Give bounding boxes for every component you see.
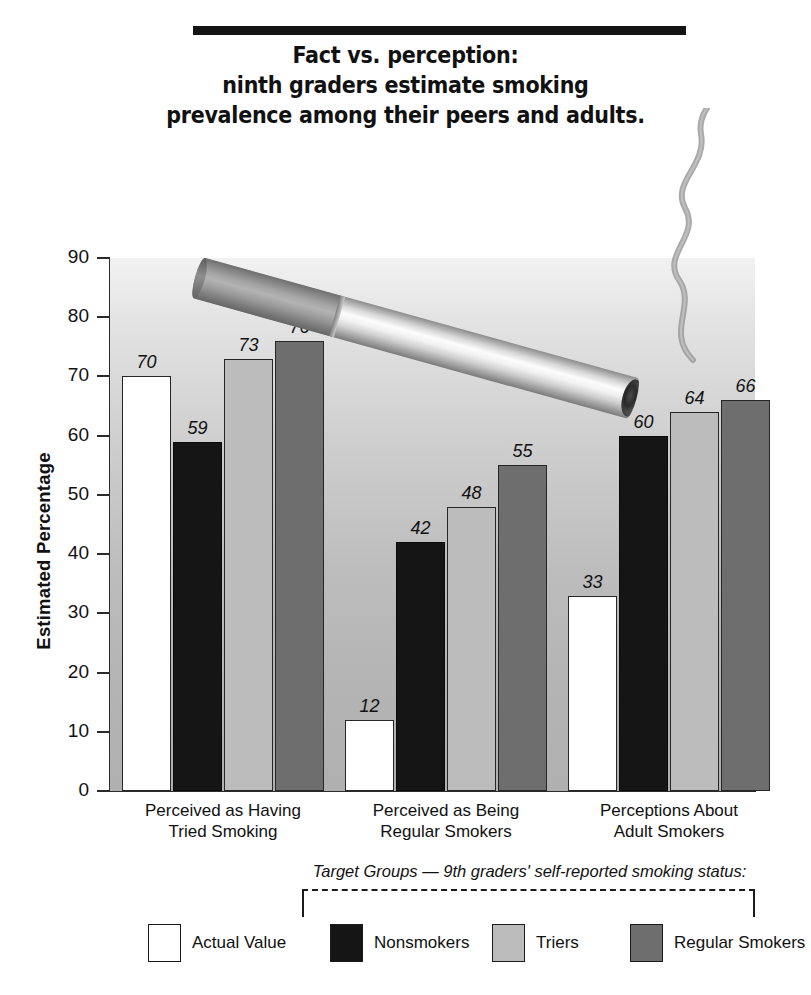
y-tick-20 bbox=[97, 672, 110, 674]
x-axis-category-label: Perceived as HavingTried Smoking bbox=[93, 800, 353, 842]
y-tick-label-10: 10 bbox=[29, 720, 89, 742]
bar bbox=[447, 507, 496, 791]
legend-item-label: Nonsmokers bbox=[374, 933, 469, 953]
bar-value-label: 33 bbox=[562, 572, 623, 593]
y-tick-70 bbox=[97, 375, 110, 377]
legend-item-label: Regular Smokers bbox=[674, 933, 805, 953]
title-line-1: Fact vs. perception: bbox=[49, 40, 763, 70]
x-axis-category-label: Perceived as BeingRegular Smokers bbox=[316, 800, 576, 842]
bar-value-label: 59 bbox=[167, 418, 228, 439]
bar-value-label: 42 bbox=[390, 518, 451, 539]
page-title: Fact vs. perception: ninth graders estim… bbox=[49, 40, 763, 130]
bar-value-label: 12 bbox=[339, 696, 400, 717]
bar-value-label: 55 bbox=[492, 441, 553, 462]
x-axis-category-label-line: Perceived as Being bbox=[316, 800, 576, 821]
y-tick-label-50: 50 bbox=[29, 483, 89, 505]
legend-item-label: Triers bbox=[536, 933, 579, 953]
title-line-3: prevalence among their peers and adults. bbox=[49, 100, 763, 130]
bar bbox=[619, 436, 668, 791]
bar bbox=[670, 412, 719, 791]
x-axis-category-label-line: Perceived as Having bbox=[93, 800, 353, 821]
bar bbox=[224, 359, 273, 791]
legend-swatch-icon bbox=[148, 924, 181, 962]
y-tick-10 bbox=[97, 731, 110, 733]
y-tick-40 bbox=[97, 553, 110, 555]
bar bbox=[173, 442, 222, 791]
bar-value-label: 70 bbox=[116, 352, 177, 373]
legend-item-label: Actual Value bbox=[192, 933, 286, 953]
y-tick-label-70: 70 bbox=[29, 364, 89, 386]
y-tick-50 bbox=[97, 494, 110, 496]
bar-value-label: 76 bbox=[269, 317, 330, 338]
bar-value-label: 60 bbox=[613, 412, 674, 433]
bar bbox=[275, 341, 324, 791]
y-tick-label-40: 40 bbox=[29, 542, 89, 564]
y-tick-label-80: 80 bbox=[29, 305, 89, 327]
bar bbox=[396, 542, 445, 791]
legend: Target Groups — 9th graders' self-report… bbox=[0, 862, 811, 995]
bar-value-label: 48 bbox=[441, 483, 502, 504]
y-tick-label-30: 30 bbox=[29, 601, 89, 623]
y-tick-0 bbox=[97, 790, 110, 792]
bar bbox=[498, 465, 547, 791]
legend-swatch-icon bbox=[492, 924, 525, 962]
bar bbox=[568, 596, 617, 791]
bar bbox=[721, 400, 770, 791]
x-axis-category-label-line: Regular Smokers bbox=[316, 821, 576, 842]
x-axis-category-label-line: Tried Smoking bbox=[93, 821, 353, 842]
legend-swatch-icon bbox=[330, 924, 363, 962]
title-line-2: ninth graders estimate smoking bbox=[49, 70, 763, 100]
legend-bracket bbox=[302, 889, 755, 917]
y-tick-label-20: 20 bbox=[29, 661, 89, 683]
y-tick-80 bbox=[97, 316, 110, 318]
x-axis-category-label-line: Adult Smokers bbox=[539, 821, 799, 842]
bar bbox=[345, 720, 394, 791]
x-axis-category-label-line: Perceptions About bbox=[539, 800, 799, 821]
x-axis-category-label: Perceptions AboutAdult Smokers bbox=[539, 800, 799, 842]
y-tick-label-0: 0 bbox=[29, 779, 89, 801]
bar-value-label: 66 bbox=[715, 376, 776, 397]
title-divider-rule bbox=[193, 26, 686, 35]
bar bbox=[122, 376, 171, 791]
legend-swatch-icon bbox=[630, 924, 663, 962]
y-tick-label-60: 60 bbox=[29, 424, 89, 446]
plot-area: 705973761242485533606466 bbox=[110, 258, 755, 791]
y-tick-60 bbox=[97, 435, 110, 437]
y-tick-30 bbox=[97, 612, 110, 614]
legend-caption: Target Groups — 9th graders' self-report… bbox=[302, 862, 757, 881]
y-tick-90 bbox=[97, 257, 110, 259]
y-tick-label-90: 90 bbox=[29, 246, 89, 268]
